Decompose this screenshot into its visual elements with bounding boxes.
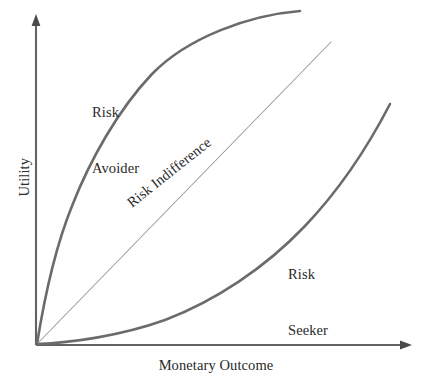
x-axis-arrow-icon (400, 341, 412, 350)
curve-risk-seeker (37, 104, 390, 344)
y-axis-arrow-icon (32, 14, 41, 26)
y-axis-title: Utility (15, 147, 34, 207)
annotation-risk-avoider-line2: Avoider (92, 159, 139, 178)
annotation-risk-seeker: Risk Seeker (288, 228, 328, 376)
annotation-risk-seeker-line2: Seeker (288, 321, 328, 340)
annotation-risk-avoider-line1: Risk (92, 103, 139, 122)
utility-risk-preference-chart: Risk Avoider Risk Seeker Risk Indifferen… (0, 0, 422, 381)
annotation-risk-seeker-line1: Risk (288, 265, 328, 284)
x-axis-title: Monetary Outcome (0, 356, 422, 375)
curve-risk-indifference (37, 42, 331, 344)
chart-canvas (0, 0, 422, 381)
